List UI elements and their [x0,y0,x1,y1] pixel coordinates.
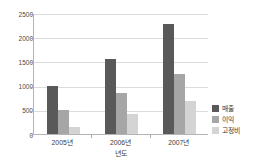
legend-swatch-icon [212,127,219,134]
bar-group [105,14,138,134]
bar-chart: 05001000150020002500 2005년2006년2007년 년도 … [0,0,259,166]
legend: 매출이익고정비 [212,103,258,136]
legend-item[interactable]: 이익 [212,114,258,125]
bar[interactable] [69,127,80,134]
x-axis-tick-label: 2006년 [91,139,151,147]
y-axis-tick-mark [30,62,32,63]
legend-label: 이익 [222,116,234,124]
x-axis-tick-mark [91,135,92,138]
y-axis-tick-mark [30,14,32,15]
y-axis-tick-label: 1500 [3,59,33,66]
y-axis-tick-label: 1000 [3,83,33,90]
y-axis-tick-label: 2000 [3,35,33,42]
bar-group [47,14,80,134]
y-axis-tick-label: 500 [3,107,33,114]
bar[interactable] [58,110,69,134]
bar[interactable] [174,74,185,135]
legend-item[interactable]: 고정비 [212,125,258,136]
bar[interactable] [116,93,127,134]
y-axis-tick-mark [30,87,32,88]
bar[interactable] [163,24,174,134]
x-axis-tick-label: 2007년 [149,139,209,147]
bar[interactable] [127,114,138,134]
legend-label: 매출 [222,105,234,113]
y-axis-tick-mark [30,38,32,39]
y-axis-tick-label: 2500 [3,11,33,18]
bar[interactable] [185,101,196,134]
bar[interactable] [105,59,116,135]
y-axis: 05001000150020002500 [0,0,33,166]
legend-item[interactable]: 매출 [212,103,258,114]
x-axis-tick-label: 2005년 [32,139,92,147]
y-axis-tick-mark [30,135,32,136]
x-axis-title: 년도 [33,150,208,158]
x-axis-tick-mark [150,135,151,138]
plot-area [33,14,208,135]
legend-swatch-icon [212,105,219,112]
legend-swatch-icon [212,116,219,123]
y-axis-tick-label: 0 [3,132,33,139]
legend-label: 고정비 [222,127,240,135]
bar-group [163,14,196,134]
bar[interactable] [47,86,58,134]
y-axis-tick-mark [30,111,32,112]
